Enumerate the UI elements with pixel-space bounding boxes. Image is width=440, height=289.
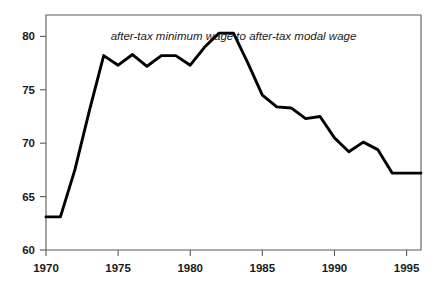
line-chart: 6065707580 197019751980198519901995 afte… [0,0,440,289]
y-tick-label: 70 [22,137,35,149]
x-tick-label: 1975 [105,262,131,274]
x-tick-label: 1970 [33,262,59,274]
chart-background [0,0,440,289]
chart-title: after-tax minimum wage to after-tax moda… [111,30,357,42]
x-tick-label: 1985 [250,262,276,274]
chart-container: 6065707580 197019751980198519901995 afte… [0,0,440,289]
y-tick-label: 75 [22,84,35,96]
x-tick-label: 1995 [394,262,420,274]
y-tick-label: 65 [22,191,35,203]
x-tick-label: 1980 [177,262,203,274]
y-tick-label: 80 [22,30,35,42]
x-tick-label: 1990 [322,262,348,274]
y-tick-label: 60 [22,244,35,256]
